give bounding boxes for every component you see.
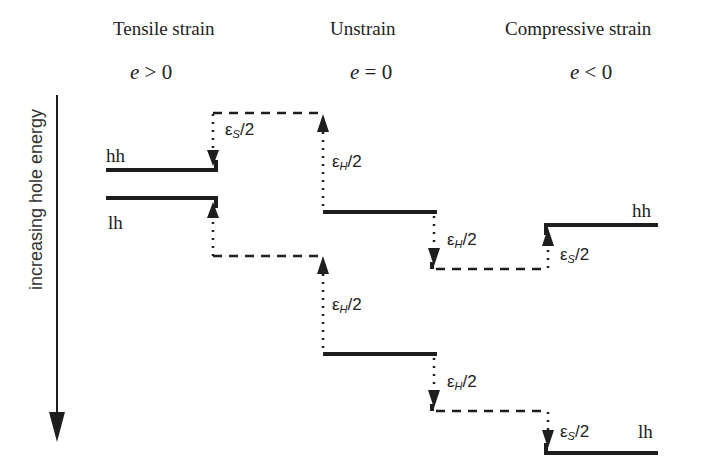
epsilon-symbol: ε [332,152,340,171]
compressive-hh-level [546,225,658,235]
subscript-h: H [340,303,348,315]
compressive-lh-level [546,443,658,453]
arrow-down-icon [428,390,440,408]
epsilon-symbol: ε [560,422,568,441]
tensile-lh-level [106,198,216,208]
half-fraction: /2 [348,295,362,314]
dashed-reference-levels [213,113,548,411]
shift-label-eps-h: εH/2 [332,295,362,315]
label-compressive-hh: hh [632,200,651,222]
half-fraction: /2 [463,230,477,249]
epsilon-symbol: ε [225,120,233,139]
half-fraction: /2 [575,245,589,264]
arrow-up-icon [542,228,554,246]
subscript-s: S [233,128,240,140]
arrow-up-icon [317,256,329,274]
shift-label-eps-s: εS/2 [560,245,589,265]
energy-level-diagram [0,0,714,470]
shift-label-eps-h: εH/2 [447,230,477,250]
arrowheads [207,114,554,448]
label-compressive-lh: lh [638,421,653,443]
band-levels [106,160,658,453]
dotted-shift-lines [213,114,548,430]
label-tensile-lh: lh [108,212,123,234]
shift-label-eps-h: εH/2 [332,152,362,172]
epsilon-symbol: ε [447,230,455,249]
energy-axis-arrow [49,95,65,442]
subscript-s: S [568,253,575,265]
subscript-s: S [568,430,575,442]
label-tensile-hh: hh [106,145,125,167]
half-fraction: /2 [348,152,362,171]
epsilon-symbol: ε [560,245,568,264]
arrow-down-icon [428,248,440,266]
half-fraction: /2 [463,372,477,391]
subscript-h: H [455,238,463,250]
shift-label-eps-s: εS/2 [225,120,254,140]
arrow-down-icon [542,430,554,448]
subscript-h: H [455,380,463,392]
epsilon-symbol: ε [332,295,340,314]
arrow-up-icon [317,114,329,132]
half-fraction: /2 [575,422,589,441]
shift-label-eps-s: εS/2 [560,422,589,442]
half-fraction: /2 [240,120,254,139]
subscript-h: H [340,160,348,172]
shift-label-eps-h: εH/2 [447,372,477,392]
epsilon-symbol: ε [447,372,455,391]
